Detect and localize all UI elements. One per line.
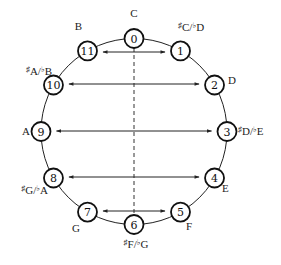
- node-number: 10: [46, 79, 60, 92]
- node-number: 2: [211, 79, 218, 92]
- note-label-2: D: [228, 74, 236, 86]
- pitch-node-10: 10: [44, 76, 63, 95]
- pitch-node-7: 7: [78, 203, 97, 222]
- pitch-node-0: 0: [125, 29, 144, 48]
- pitch-class-clock-diagram: 01234567891011 C♯C/♭DD♯D/♭EEF♯F/♭GG♯G/♭A…: [0, 0, 281, 265]
- node-number: 7: [84, 206, 91, 219]
- note-label-9: A: [22, 125, 30, 137]
- node-number: 6: [131, 219, 138, 232]
- note-label-3: ♯D/♭E: [238, 125, 264, 137]
- node-number: 0: [131, 33, 138, 46]
- note-label-11: B: [75, 20, 82, 32]
- note-label-7: G: [72, 222, 80, 234]
- pitch-node-2: 2: [205, 76, 224, 95]
- note-label-1: ♯C/♭D: [178, 21, 204, 33]
- node-number: 8: [50, 172, 57, 185]
- node-number: 11: [81, 45, 95, 58]
- note-label-6: ♯F/♭G: [124, 238, 149, 250]
- note-label-0: C: [130, 7, 137, 19]
- note-label-5: F: [186, 220, 192, 232]
- node-number: 4: [211, 172, 218, 185]
- pitch-node-11: 11: [78, 41, 97, 60]
- pitch-node-5: 5: [171, 203, 190, 222]
- inversion-arrows: [57, 52, 212, 211]
- note-label-10: ♯A/♭B: [26, 65, 52, 77]
- note-label-8: ♯G/♭A: [21, 184, 48, 196]
- node-number: 9: [38, 126, 45, 139]
- pitch-node-3: 3: [218, 122, 237, 141]
- pitch-node-6: 6: [125, 215, 144, 234]
- note-label-4: E: [222, 182, 229, 194]
- node-number: 5: [177, 206, 184, 219]
- node-number: 3: [224, 126, 231, 139]
- pitch-node-9: 9: [32, 122, 51, 141]
- pitch-node-1: 1: [171, 41, 190, 60]
- node-number: 1: [177, 45, 184, 58]
